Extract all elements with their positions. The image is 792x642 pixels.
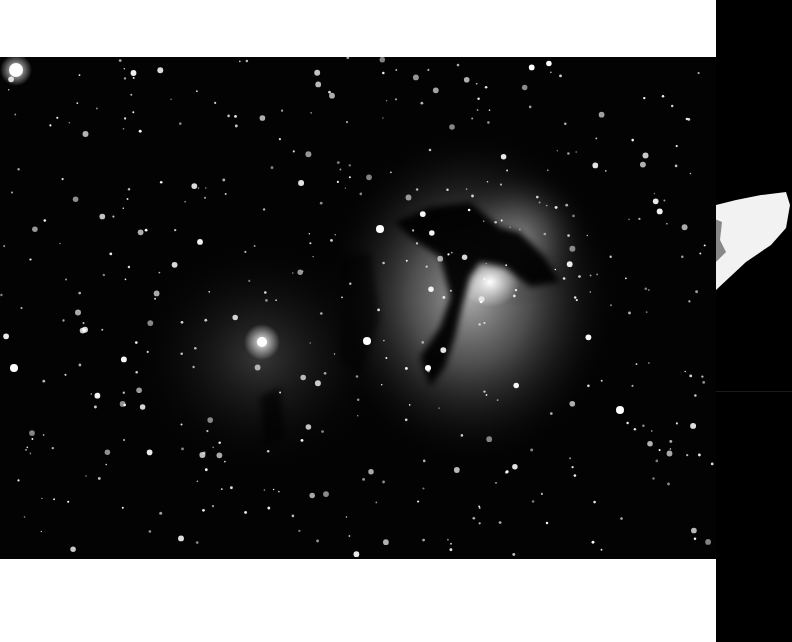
nebula-svg	[0, 57, 716, 559]
scanned-page	[0, 0, 716, 642]
adjacent-page-edge	[716, 0, 792, 642]
strip-divider	[716, 391, 792, 392]
paper-scrap	[716, 0, 792, 642]
nebula-photograph	[0, 57, 716, 559]
